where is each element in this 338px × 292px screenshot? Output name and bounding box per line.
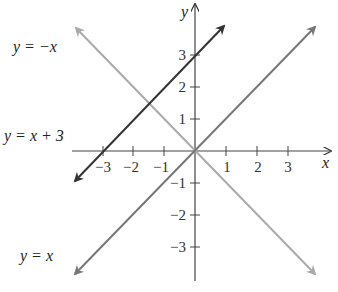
label-y-eq-x: y = x <box>18 247 53 265</box>
x-tick-label: 2 <box>254 159 262 175</box>
label-y-eq-neg-x: y = −x <box>11 38 57 56</box>
label-y-eq-x-plus-3: y = x + 3 <box>2 127 64 145</box>
x-tick-label: 1 <box>223 159 231 175</box>
y-tick-label: −2 <box>170 207 186 223</box>
x-axis-label: x <box>321 154 329 171</box>
y-tick-label: −3 <box>170 239 186 255</box>
x-tick-label: −2 <box>123 159 139 175</box>
chart-canvas: −3 −2 −1 1 2 3 3 2 1 −1 −2 −3 x y y = −x… <box>0 0 338 292</box>
y-tick-label: 2 <box>179 79 187 95</box>
y-tick-label: −1 <box>170 175 186 191</box>
x-tick-label: 3 <box>284 159 292 175</box>
x-tick-label: −3 <box>95 159 111 175</box>
y-tick-label: 1 <box>179 111 187 127</box>
y-axis-label: y <box>179 3 189 21</box>
x-tick-labels: −3 −2 −1 1 2 3 <box>95 159 292 175</box>
x-tick-label: −1 <box>153 159 169 175</box>
y-tick-label: 3 <box>179 47 187 63</box>
